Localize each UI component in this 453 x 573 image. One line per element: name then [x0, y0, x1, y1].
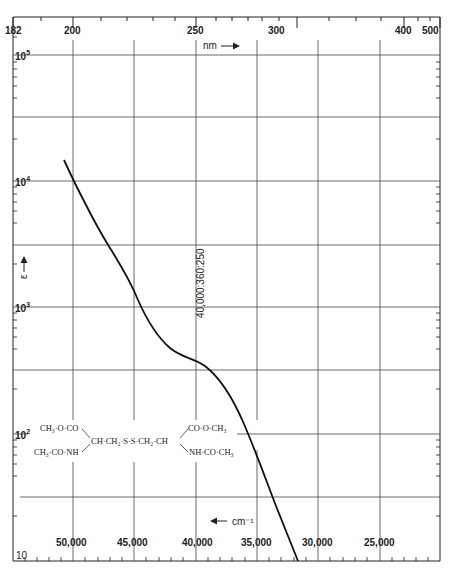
- formula-right-bottom: NH·CO·CH₃: [189, 447, 234, 457]
- bottom-minor-ticks: [25, 557, 428, 561]
- svg-text:nm: nm: [203, 40, 217, 51]
- left-arrowhead-icon: [210, 518, 217, 525]
- cm-tick-40000: 40,000: [182, 537, 213, 548]
- cm-tick-45000: 45,000: [117, 537, 148, 548]
- peak-annotation: 40,000:360:250: [195, 248, 206, 318]
- y-tick-1e3: 103: [15, 301, 30, 314]
- right-minor-ticks: [436, 62, 440, 516]
- plot-frame: [13, 17, 440, 561]
- nm-tick-182: 182: [5, 25, 22, 36]
- y-tick-1e2: 102: [15, 428, 30, 441]
- cm-tick-35000: 35,000: [241, 537, 272, 548]
- nm-tick-300: 300: [268, 25, 285, 36]
- y-tick-10: 10: [16, 550, 28, 561]
- y-tick-1e5: 105: [15, 49, 30, 62]
- svg-text:ε: ε: [18, 274, 29, 279]
- formula-left-bottom: CH₃·CO·NH: [34, 447, 79, 457]
- y-tick-1e4: 104: [15, 175, 30, 188]
- nm-tick-500: 500: [422, 25, 439, 36]
- nm-unit-label: nm: [203, 40, 240, 51]
- cm-tick-50000: 50,000: [56, 537, 87, 548]
- right-arrowhead-icon: [233, 43, 240, 50]
- formula-center: CH·CH₂·S·S·CH₂·CH: [91, 436, 168, 446]
- vertical-gridlines: [73, 40, 380, 561]
- bottom-axis-labels: 50,000 45,000 40,000 35,000 30,000 25,00…: [56, 537, 395, 548]
- y-axis-labels: 105 104 103 102 10: [15, 49, 30, 561]
- structural-formula: CH₃·O·CO CH₃·CO·NH CH·CH₂·S·S·CH₂·CH CO·…: [34, 420, 236, 462]
- formula-right-top: CO·O·CH₃: [188, 423, 226, 433]
- top-axis-labels: 182 200 250 300 400 500: [5, 25, 439, 36]
- uv-spectrum-chart: 182 200 250 300 400 500 nm 105 104 103 1…: [0, 0, 453, 573]
- cm-tick-30000: 30,000: [302, 537, 333, 548]
- up-arrowhead-icon: [21, 256, 28, 263]
- formula-left-top: CH₃·O·CO: [40, 423, 78, 433]
- cm-tick-25000: 25,000: [364, 537, 395, 548]
- cm-unit-label: cm⁻¹: [210, 516, 254, 527]
- nm-tick-200: 200: [64, 25, 81, 36]
- nm-tick-250: 250: [187, 25, 204, 36]
- nm-tick-400: 400: [395, 25, 412, 36]
- spectrum-curve: [64, 160, 298, 561]
- left-minor-ticks: [13, 37, 17, 516]
- epsilon-label: ε: [18, 256, 29, 279]
- svg-text:cm⁻¹: cm⁻¹: [232, 516, 254, 527]
